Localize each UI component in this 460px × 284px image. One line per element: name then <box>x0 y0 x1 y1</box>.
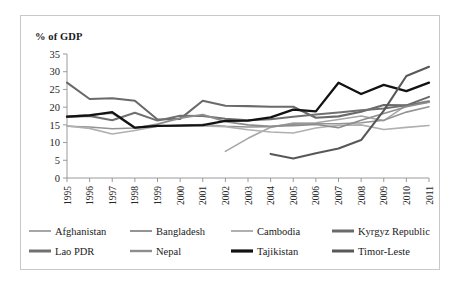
legend-label: Afghanistan <box>55 226 106 237</box>
legend-item-tajikistan[interactable]: Tajikistan <box>231 241 332 261</box>
legend-item-bangladesh[interactable]: Bangladesh <box>130 221 231 241</box>
legend-label: Lao PDR <box>55 246 94 257</box>
legend-label: Bangladesh <box>156 226 205 237</box>
legend-swatch-cambodia <box>231 226 253 236</box>
legend-swatch-tajikistan <box>231 246 253 256</box>
y-tick-label: 10 <box>50 137 61 148</box>
legend-swatch-afghanistan <box>29 226 51 236</box>
legend-swatch-lao-pdr <box>29 246 51 256</box>
x-tick-label: 2009 <box>379 186 389 205</box>
legend-item-kyrgyz-republic[interactable]: Kyrgyz Republic <box>332 221 433 241</box>
x-tick-label: 1995 <box>63 186 73 205</box>
legend-item-lao-pdr[interactable]: Lao PDR <box>29 241 130 261</box>
legend-swatch-bangladesh <box>130 226 152 236</box>
legend-swatch-kyrgyz-republic <box>332 226 354 236</box>
legend-label: Tajikistan <box>257 246 298 257</box>
legend-row: Afghanistan Bangladesh Cambodia Kyrgyz R… <box>29 221 433 241</box>
legend-label: Kyrgyz Republic <box>358 226 430 237</box>
legend-item-timor-leste[interactable]: Timor-Leste <box>332 241 433 261</box>
y-tick-label: 35 <box>50 49 61 60</box>
y-tick-label: 5 <box>55 155 60 166</box>
legend-label: Timor-Leste <box>358 246 410 257</box>
x-tick-label: 2007 <box>334 186 344 205</box>
x-tick-label: 2006 <box>311 186 321 205</box>
legend-label: Nepal <box>156 246 181 257</box>
legend-swatch-timor-leste <box>332 246 354 256</box>
x-tick-label: 2001 <box>198 186 208 205</box>
x-tick-label: 2005 <box>289 186 299 205</box>
legend-swatch-nepal <box>130 246 152 256</box>
x-tick-label: 2011 <box>425 186 435 205</box>
x-tick-label: 1997 <box>108 186 118 205</box>
x-tick-label: 2008 <box>357 186 367 205</box>
legend-label: Cambodia <box>257 226 300 237</box>
x-tick-label: 1996 <box>85 186 95 205</box>
legend-row: Lao PDR Nepal Tajikistan Timor-Leste <box>29 241 433 261</box>
y-tick-label: 0 <box>55 173 60 184</box>
x-tick-label: 1998 <box>130 186 140 205</box>
chart-legend: Afghanistan Bangladesh Cambodia Kyrgyz R… <box>29 221 433 265</box>
x-tick-label: 2003 <box>244 186 254 205</box>
y-tick-label: 15 <box>50 120 61 131</box>
x-tick-label: 2010 <box>402 186 412 205</box>
x-tick-label: 2000 <box>176 186 186 205</box>
x-tick-label: 1999 <box>153 186 163 205</box>
y-tick-label: 30 <box>50 66 61 77</box>
x-tick-label: 2002 <box>221 186 231 205</box>
legend-item-afghanistan[interactable]: Afghanistan <box>29 221 130 241</box>
x-tick-label: 2004 <box>266 186 276 205</box>
chart-figure: % of GDP 0510152025303519951996199719981… <box>20 15 440 270</box>
y-tick-label: 20 <box>50 102 61 113</box>
legend-item-nepal[interactable]: Nepal <box>130 241 231 261</box>
y-tick-label: 25 <box>50 84 61 95</box>
legend-item-cambodia[interactable]: Cambodia <box>231 221 332 241</box>
